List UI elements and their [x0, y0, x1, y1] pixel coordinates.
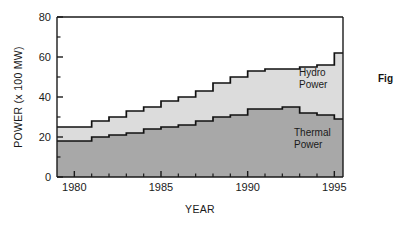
figure-caption-fragment: Fig	[378, 73, 397, 84]
hydro-power-label-line1: Hydro	[299, 67, 326, 78]
x-axis-tick-label: 1980	[62, 181, 86, 193]
hydro-power-label-line2: Power	[299, 79, 328, 90]
x-axis-tick-label: 1985	[149, 181, 173, 193]
hydro-power-label: Hydro Power	[299, 67, 328, 90]
y-axis-tick-label: 20	[39, 131, 51, 143]
power-generation-stacked-area-chart: 020406080 1980198519901995 POWER (x 100 …	[0, 0, 397, 228]
y-axis-tick-label: 40	[39, 91, 51, 103]
y-axis-tick-label: 80	[39, 11, 51, 23]
y-axis-tick-label: 60	[39, 51, 51, 63]
x-axis-tick-label: 1990	[235, 181, 259, 193]
y-axis-tick-label: 0	[45, 171, 51, 183]
x-axis-tick-label: 1995	[322, 181, 346, 193]
x-axis-tick-labels: 1980198519901995	[62, 181, 346, 193]
thermal-power-label-line2: Power	[294, 139, 323, 150]
thermal-power-label-line1: Thermal	[294, 127, 331, 138]
figure-container: 020406080 1980198519901995 POWER (x 100 …	[0, 0, 397, 228]
y-axis-tick-labels: 020406080	[39, 11, 51, 183]
x-axis-title: YEAR	[185, 203, 215, 215]
y-axis-title: POWER (x 100 MW)	[12, 46, 24, 148]
